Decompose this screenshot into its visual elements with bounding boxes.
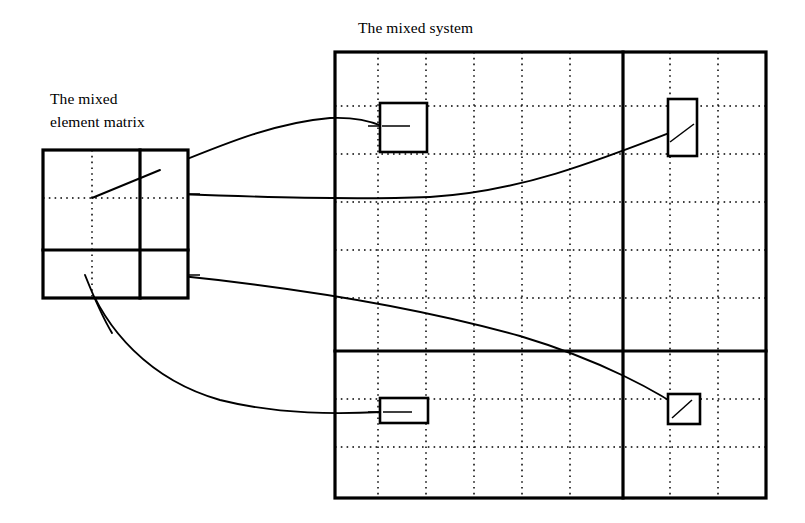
matrix-title-line1: The mixed [50, 90, 118, 107]
figure-svg: The mixed system The mixed element matri… [0, 0, 805, 523]
diagram-canvas: The mixed system The mixed element matri… [0, 0, 805, 523]
matrix-title-line2: element matrix [50, 113, 145, 130]
element-bottom-left [380, 398, 428, 423]
element-top-left [380, 103, 427, 152]
element-bottom-right [668, 394, 700, 424]
system-title: The mixed system [358, 19, 473, 36]
matrix-background [43, 150, 188, 298]
mixed-element-matrix [43, 150, 188, 333]
element-top-right [668, 99, 697, 156]
